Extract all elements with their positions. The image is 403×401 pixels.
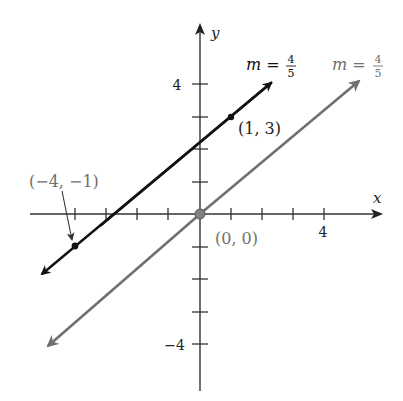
y-tick-label-neg4: −4 bbox=[164, 337, 185, 353]
x-tick-label-4: 4 bbox=[319, 224, 328, 240]
y-axis-label: y bbox=[210, 24, 220, 42]
point-1-3 bbox=[228, 114, 234, 120]
point-label-origin: (0, 0) bbox=[215, 229, 258, 248]
y-tick-label-4: 4 bbox=[173, 77, 182, 93]
slope-label-black: m = 4 5 bbox=[246, 53, 296, 80]
slope-label-gray: m = 4 5 bbox=[332, 53, 383, 80]
point-label-neg4-neg1: (−4, −1) bbox=[29, 172, 99, 191]
coordinate-plane: y x 4 −4 4 (1, 3) (−4, −1) (0, 0) m = 4 … bbox=[0, 0, 403, 401]
pointer-arrow bbox=[62, 191, 72, 240]
gray-line bbox=[200, 81, 359, 214]
point-neg4-neg1 bbox=[72, 243, 79, 250]
point-origin bbox=[195, 209, 205, 219]
svg-text:4: 4 bbox=[375, 53, 382, 66]
x-axis-label: x bbox=[373, 189, 382, 207]
svg-text:5: 5 bbox=[375, 67, 382, 80]
svg-text:m =: m = bbox=[332, 55, 366, 74]
svg-text:4: 4 bbox=[288, 53, 295, 66]
svg-text:5: 5 bbox=[288, 67, 295, 80]
point-label-1-3: (1, 3) bbox=[238, 119, 281, 138]
svg-text:m =: m = bbox=[246, 55, 280, 74]
